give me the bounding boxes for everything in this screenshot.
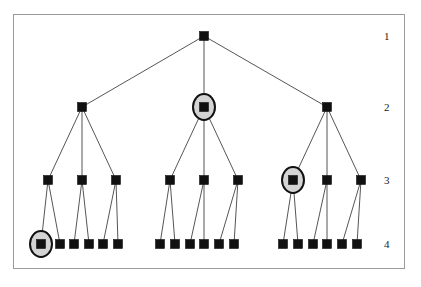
tree-node[interactable] — [289, 176, 298, 185]
tree-node[interactable] — [44, 176, 53, 185]
tree-node[interactable] — [200, 240, 209, 249]
tree-node[interactable] — [323, 103, 332, 112]
tree-node[interactable] — [114, 240, 123, 249]
tree-node[interactable] — [234, 176, 243, 185]
tree-node[interactable] — [78, 176, 87, 185]
tree-node[interactable] — [78, 103, 87, 112]
tree-node[interactable] — [200, 32, 209, 41]
level-label-1: 1 — [384, 31, 390, 42]
tree-node[interactable] — [353, 240, 362, 249]
level-label-3: 3 — [384, 175, 390, 186]
tree-node[interactable] — [215, 240, 224, 249]
tree-node[interactable] — [200, 103, 209, 112]
tree-node[interactable] — [294, 240, 303, 249]
tree-node[interactable] — [186, 240, 195, 249]
tree-diagram-canvas — [0, 0, 421, 287]
tree-node[interactable] — [166, 176, 175, 185]
tree-node[interactable] — [279, 240, 288, 249]
tree-node[interactable] — [357, 176, 366, 185]
tree-node[interactable] — [156, 240, 165, 249]
tree-node[interactable] — [56, 240, 65, 249]
tree-node[interactable] — [37, 240, 46, 249]
tree-node[interactable] — [99, 240, 108, 249]
tree-node[interactable] — [230, 240, 239, 249]
level-label-2: 2 — [384, 102, 390, 113]
tree-node[interactable] — [171, 240, 180, 249]
tree-node[interactable] — [338, 240, 347, 249]
tree-node[interactable] — [323, 176, 332, 185]
tree-node[interactable] — [112, 176, 121, 185]
tree-node[interactable] — [70, 240, 79, 249]
level-label-4: 4 — [384, 239, 390, 250]
tree-node[interactable] — [85, 240, 94, 249]
tree-diagram-figure: 1234 — [0, 0, 421, 287]
tree-node[interactable] — [323, 240, 332, 249]
tree-node[interactable] — [200, 176, 209, 185]
tree-node[interactable] — [309, 240, 318, 249]
